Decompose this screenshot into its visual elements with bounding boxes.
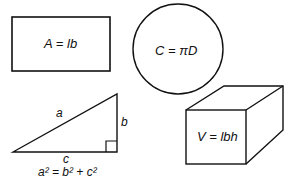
pythagorean-formula: a² = b² + c² (38, 165, 97, 179)
triangle-side-c-label: c (63, 152, 69, 166)
right-triangle-shape (13, 94, 117, 152)
circle-circumference-formula: C = πD (155, 43, 197, 58)
rectangle-area-formula: A = lb (44, 36, 77, 51)
geometry-figures (0, 0, 291, 182)
box-volume-formula: V = lbh (197, 129, 238, 144)
triangle-side-a-label: a (56, 106, 63, 120)
rectangular-box-shape (186, 86, 283, 164)
triangle-side-b-label: b (121, 115, 128, 129)
